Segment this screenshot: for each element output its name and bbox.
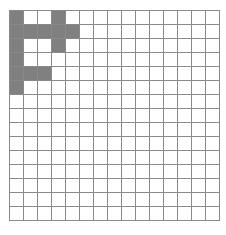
grid-cell-empty[interactable] [108, 39, 122, 53]
grid-cell-empty[interactable] [108, 53, 122, 67]
grid-cell-empty[interactable] [136, 81, 150, 95]
grid-cell-empty[interactable] [94, 137, 108, 151]
grid-cell-empty[interactable] [206, 123, 220, 137]
grid-cell-empty[interactable] [150, 151, 164, 165]
grid-cell-empty[interactable] [10, 137, 24, 151]
grid-cell-empty[interactable] [94, 95, 108, 109]
grid-cell-empty[interactable] [80, 81, 94, 95]
grid-cell-empty[interactable] [94, 109, 108, 123]
grid-cell-empty[interactable] [122, 123, 136, 137]
grid-cell-empty[interactable] [80, 67, 94, 81]
grid-cell-empty[interactable] [80, 151, 94, 165]
grid-cell-empty[interactable] [94, 207, 108, 221]
grid-cell-empty[interactable] [122, 81, 136, 95]
grid-cell-filled[interactable] [10, 39, 24, 53]
grid-cell-empty[interactable] [38, 151, 52, 165]
grid-cell-empty[interactable] [136, 137, 150, 151]
grid-cell-empty[interactable] [192, 179, 206, 193]
grid-cell-empty[interactable] [66, 67, 80, 81]
grid-cell-empty[interactable] [24, 207, 38, 221]
grid-cell-empty[interactable] [206, 165, 220, 179]
grid-cell-empty[interactable] [192, 137, 206, 151]
grid-cell-empty[interactable] [164, 53, 178, 67]
grid-cell-empty[interactable] [136, 179, 150, 193]
grid-cell-empty[interactable] [108, 137, 122, 151]
grid-cell-empty[interactable] [136, 207, 150, 221]
grid-cell-empty[interactable] [66, 137, 80, 151]
grid-cell-filled[interactable] [10, 67, 24, 81]
grid-cell-empty[interactable] [94, 39, 108, 53]
grid-cell-empty[interactable] [150, 137, 164, 151]
grid-cell-filled[interactable] [10, 11, 24, 25]
grid-cell-empty[interactable] [108, 207, 122, 221]
grid-cell-empty[interactable] [178, 151, 192, 165]
grid-cell-empty[interactable] [164, 95, 178, 109]
grid-cell-empty[interactable] [66, 39, 80, 53]
grid-cell-empty[interactable] [122, 165, 136, 179]
grid-cell-empty[interactable] [38, 11, 52, 25]
grid-cell-empty[interactable] [122, 207, 136, 221]
grid-cell-empty[interactable] [38, 109, 52, 123]
grid-cell-empty[interactable] [206, 67, 220, 81]
grid-cell-empty[interactable] [136, 67, 150, 81]
grid-cell-empty[interactable] [192, 95, 206, 109]
grid-cell-empty[interactable] [150, 179, 164, 193]
grid-cell-empty[interactable] [66, 193, 80, 207]
grid-cell-empty[interactable] [178, 123, 192, 137]
grid-cell-empty[interactable] [52, 95, 66, 109]
grid-cell-empty[interactable] [206, 39, 220, 53]
grid-cell-empty[interactable] [52, 151, 66, 165]
grid-cell-empty[interactable] [108, 25, 122, 39]
grid-cell-empty[interactable] [136, 151, 150, 165]
grid-cell-empty[interactable] [24, 11, 38, 25]
grid-cell-empty[interactable] [164, 39, 178, 53]
grid-cell-empty[interactable] [192, 11, 206, 25]
grid-cell-empty[interactable] [206, 53, 220, 67]
grid-cell-empty[interactable] [192, 207, 206, 221]
grid-cell-empty[interactable] [108, 165, 122, 179]
grid-cell-empty[interactable] [38, 81, 52, 95]
grid-cell-empty[interactable] [52, 137, 66, 151]
grid-cell-empty[interactable] [192, 39, 206, 53]
grid-cell-empty[interactable] [150, 11, 164, 25]
grid-cell-empty[interactable] [94, 67, 108, 81]
grid-cell-empty[interactable] [80, 137, 94, 151]
grid-cell-empty[interactable] [122, 179, 136, 193]
grid-cell-empty[interactable] [94, 11, 108, 25]
grid-cell-empty[interactable] [150, 39, 164, 53]
grid-cell-empty[interactable] [206, 193, 220, 207]
grid-cell-empty[interactable] [178, 81, 192, 95]
grid-cell-empty[interactable] [122, 25, 136, 39]
grid-cell-empty[interactable] [150, 165, 164, 179]
grid-cell-filled[interactable] [24, 67, 38, 81]
grid-cell-empty[interactable] [164, 109, 178, 123]
grid-cell-empty[interactable] [136, 53, 150, 67]
grid-cell-empty[interactable] [122, 11, 136, 25]
grid-cell-empty[interactable] [108, 123, 122, 137]
grid-cell-empty[interactable] [80, 95, 94, 109]
grid-cell-empty[interactable] [108, 95, 122, 109]
grid-cell-empty[interactable] [164, 179, 178, 193]
grid-cell-empty[interactable] [206, 179, 220, 193]
grid-cell-empty[interactable] [66, 109, 80, 123]
grid-cell-empty[interactable] [80, 179, 94, 193]
grid-cell-empty[interactable] [94, 123, 108, 137]
grid-cell-empty[interactable] [38, 39, 52, 53]
grid-cell-empty[interactable] [10, 123, 24, 137]
grid-cell-empty[interactable] [192, 165, 206, 179]
grid-cell-filled[interactable] [52, 39, 66, 53]
grid-cell-empty[interactable] [38, 95, 52, 109]
grid-cell-empty[interactable] [66, 95, 80, 109]
grid-cell-empty[interactable] [52, 109, 66, 123]
grid-cell-empty[interactable] [10, 193, 24, 207]
grid-cell-empty[interactable] [206, 137, 220, 151]
grid-cell-empty[interactable] [66, 151, 80, 165]
grid-cell-filled[interactable] [38, 67, 52, 81]
grid-cell-empty[interactable] [192, 67, 206, 81]
grid-cell-empty[interactable] [52, 207, 66, 221]
grid-cell-empty[interactable] [206, 207, 220, 221]
grid-cell-empty[interactable] [136, 109, 150, 123]
grid-cell-empty[interactable] [108, 151, 122, 165]
grid-cell-empty[interactable] [52, 53, 66, 67]
grid-cell-empty[interactable] [80, 109, 94, 123]
